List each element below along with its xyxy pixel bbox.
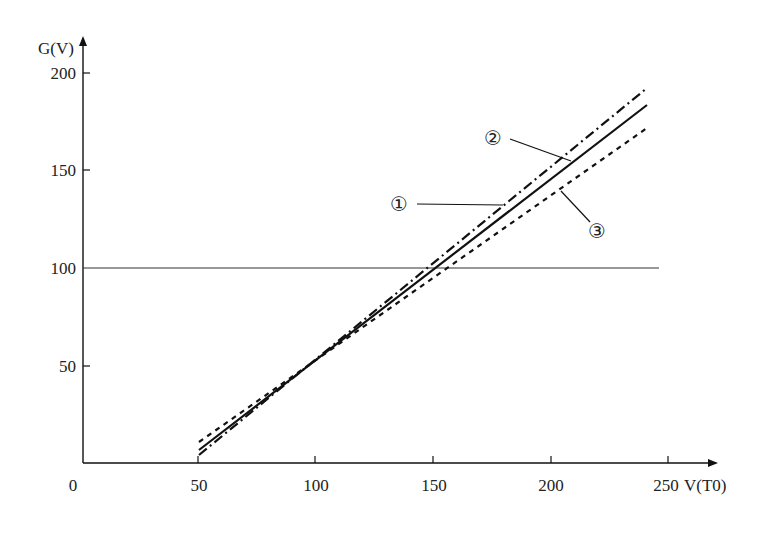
series-dashed xyxy=(199,128,647,442)
y-axis-title: G(V) xyxy=(38,39,74,58)
x-tick-label-150: 150 xyxy=(421,476,447,495)
x-tick-label-50: 50 xyxy=(191,476,208,495)
callout2-leader xyxy=(510,139,571,161)
y-tick-label-50: 50 xyxy=(59,357,76,376)
callout3-leader xyxy=(561,191,590,222)
callout1-label: ① xyxy=(390,192,408,216)
chart-canvas: ① ② ③ G(V) V(T0) 200 150 100 50 0 50 100… xyxy=(0,0,774,535)
series-solid xyxy=(199,105,647,450)
y-tick-label-200: 200 xyxy=(51,64,77,83)
callout3-label: ③ xyxy=(588,219,606,243)
x-axis-title: V(T0) xyxy=(684,476,726,495)
x-axis xyxy=(83,456,716,463)
y-axis xyxy=(83,38,90,463)
x-tick-label-200: 200 xyxy=(538,476,564,495)
x-tick-label-100: 100 xyxy=(303,476,329,495)
series-dash-dot xyxy=(199,88,647,455)
origin-label: 0 xyxy=(69,476,78,495)
callout1-leader xyxy=(417,204,503,205)
callout2-label: ② xyxy=(484,126,502,150)
y-tick-label-150: 150 xyxy=(51,161,77,180)
y-tick-label-100: 100 xyxy=(51,259,77,278)
x-tick-label-250: 250 xyxy=(653,476,679,495)
